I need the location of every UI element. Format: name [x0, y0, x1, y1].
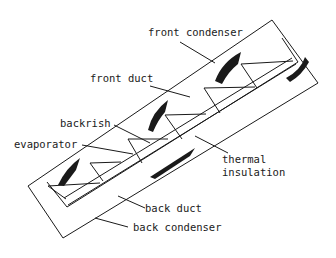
insulation-line-lower [68, 64, 296, 205]
label-backrish: backrish [60, 117, 111, 129]
label-thermal: thermal [222, 153, 266, 165]
leader-front-condenser [180, 42, 215, 63]
solar-still-diagram: front condenser front duct backrish evap… [0, 0, 336, 258]
leader-back-condenser [95, 218, 128, 227]
arrow-up-icon [215, 52, 241, 84]
label-front-condenser: front condenser [148, 26, 243, 38]
arrow-up-icon [58, 158, 80, 186]
label-front-duct: front duct [90, 72, 153, 84]
arrow-up-icon [148, 100, 168, 132]
leader-thermal-insulation [195, 136, 228, 153]
label-back-condenser: back condenser [133, 221, 222, 233]
leader-evaporator [82, 145, 133, 154]
evaporator-fins [48, 61, 293, 199]
leader-backrish [114, 125, 150, 143]
label-back-duct: back duct [145, 202, 202, 214]
label-insulation: insulation [222, 166, 285, 178]
arrow-down-icon [150, 148, 195, 179]
leader-front-duct [150, 86, 190, 97]
label-evaporator: evaporator [14, 138, 77, 150]
